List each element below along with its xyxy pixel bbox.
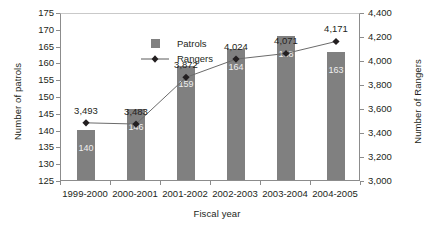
y-tick-label-left: 160 xyxy=(28,58,54,68)
y-tick-label-right: 3,200 xyxy=(368,152,398,162)
legend-item-rangers: Rangers xyxy=(139,51,213,66)
line-value-label: 3,483 xyxy=(124,107,148,117)
line-value-label: 4,024 xyxy=(224,42,248,52)
x-tick-label: 2000-2001 xyxy=(112,188,157,199)
y-tick-label-left: 165 xyxy=(28,42,54,52)
line-value-label: 3,493 xyxy=(74,106,98,116)
y-axis-title-right: Number of Rangers xyxy=(412,37,423,167)
chart-legend: Patrols Rangers xyxy=(139,36,213,66)
y-tick-label-right: 4,000 xyxy=(368,56,398,66)
line-marker-diamond xyxy=(282,50,289,57)
y-tick-label-left: 130 xyxy=(28,159,54,169)
legend-label-rangers: Rangers xyxy=(177,53,213,64)
y-tick-label-right: 3,000 xyxy=(368,176,398,186)
plot-area: 140146159164168163 3,4933,4833,8724,0244… xyxy=(60,13,360,181)
x-tick-label: 2001-2002 xyxy=(162,188,207,199)
line-marker-diamond xyxy=(332,38,339,45)
y-tick-label-left: 125 xyxy=(28,176,54,186)
line-marker-diamond xyxy=(232,56,239,63)
line-value-label: 4,071 xyxy=(274,36,298,46)
x-axis-title: Fiscal year xyxy=(0,208,434,219)
legend-item-patrols: Patrols xyxy=(139,36,213,51)
y-tick-label-right: 3,400 xyxy=(368,128,398,138)
x-tick-label: 2002-2003 xyxy=(212,188,257,199)
y-tick-label-right: 3,800 xyxy=(368,80,398,90)
line-diamond-marker-icon xyxy=(139,54,171,64)
x-tick-label: 2004-2005 xyxy=(312,188,357,199)
x-tick-label: 2003-2004 xyxy=(262,188,307,199)
y-tick-label-left: 135 xyxy=(28,142,54,152)
y-axis-title-left: Number of patrols xyxy=(12,37,23,167)
square-swatch-icon xyxy=(139,39,171,48)
x-tick-label: 1999-2000 xyxy=(62,188,107,199)
y-tick-label-left: 150 xyxy=(28,92,54,102)
line-value-label: 4,171 xyxy=(324,24,348,34)
y-tick-label-left: 170 xyxy=(28,25,54,35)
line-marker-diamond xyxy=(82,119,89,126)
y-tick-label-right: 4,400 xyxy=(368,8,398,18)
y-tick-label-left: 140 xyxy=(28,126,54,136)
y-tick-label-left: 175 xyxy=(28,8,54,18)
y-tick-label-right: 3,600 xyxy=(368,104,398,114)
y-tick-label-right: 4,200 xyxy=(368,32,398,42)
y-tick-label-left: 155 xyxy=(28,75,54,85)
y-tick-label-left: 145 xyxy=(28,109,54,119)
chart-container: Number of patrols Number of Rangers Fisc… xyxy=(0,0,434,232)
legend-label-patrols: Patrols xyxy=(177,38,207,49)
